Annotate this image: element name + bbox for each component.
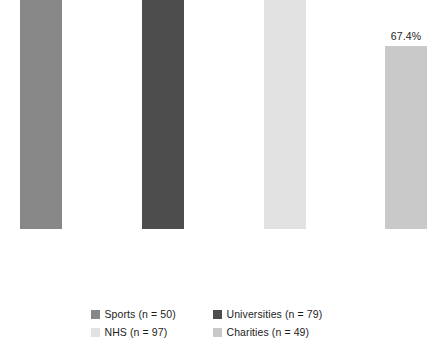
- bar-group-charities: 67.4%: [385, 46, 427, 229]
- bar-chart: 88.0% 95.0% 88.7% 67.4% Sports (n = 50): [0, 0, 435, 349]
- legend-label-sports: Sports (n = 50): [105, 308, 176, 320]
- legend-label-charities: Charities (n = 49): [227, 326, 310, 338]
- bar-sports[interactable]: [20, 0, 62, 229]
- bar-group-universities: 95.0%: [142, 0, 184, 229]
- bar-charities[interactable]: [385, 46, 427, 229]
- bar-group-sports: 88.0%: [20, 0, 62, 229]
- legend-swatch-icon-nhs: [91, 328, 100, 337]
- legend-grid: Sports (n = 50) Universities (n = 79) NH…: [91, 305, 345, 341]
- legend-swatch-icon-charities: [213, 328, 222, 337]
- legend-item-charities[interactable]: Charities (n = 49): [213, 323, 345, 341]
- legend-label-nhs: NHS (n = 97): [105, 326, 168, 338]
- legend-item-universities[interactable]: Universities (n = 79): [213, 305, 345, 323]
- plot-area: 88.0% 95.0% 88.7% 67.4%: [0, 0, 435, 292]
- legend-swatch-icon-sports: [91, 310, 100, 319]
- legend-swatch-icon-universities: [213, 310, 222, 319]
- chart-legend: Sports (n = 50) Universities (n = 79) NH…: [0, 305, 435, 341]
- legend-item-nhs[interactable]: NHS (n = 97): [91, 323, 213, 341]
- legend-label-universities: Universities (n = 79): [227, 308, 323, 320]
- bar-nhs[interactable]: [264, 0, 306, 229]
- bar-universities[interactable]: [142, 0, 184, 229]
- bar-value-label-charities: 67.4%: [391, 30, 421, 42]
- bar-group-nhs: 88.7%: [264, 0, 306, 229]
- legend-item-sports[interactable]: Sports (n = 50): [91, 305, 213, 323]
